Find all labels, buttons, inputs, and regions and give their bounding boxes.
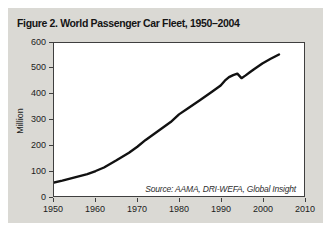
x-tick-mark <box>53 198 54 202</box>
x-tick-label: 2000 <box>248 204 278 214</box>
fleet-line-series <box>54 54 279 182</box>
x-tick-label: 1980 <box>164 204 194 214</box>
x-tick-label: 1970 <box>122 204 152 214</box>
y-tick-label: 300 <box>8 115 46 124</box>
x-tick-label: 2010 <box>290 204 320 214</box>
plot-box: Source: AAMA, DRI-WEFA, Global Insight <box>53 42 305 197</box>
y-tick-label: 500 <box>8 63 46 72</box>
fleet-line-chart <box>54 43 304 196</box>
x-tick-mark <box>263 198 264 202</box>
y-tick-label: 200 <box>8 141 46 150</box>
x-tick-label: 1950 <box>38 204 68 214</box>
y-tick-label: 0 <box>8 193 46 202</box>
x-tick-mark <box>305 198 306 202</box>
x-tick-mark <box>137 198 138 202</box>
y-tick-label: 600 <box>8 38 46 47</box>
x-tick-label: 1960 <box>80 204 110 214</box>
x-tick-mark <box>95 198 96 202</box>
y-tick-label: 100 <box>8 167 46 176</box>
x-tick-mark <box>221 198 222 202</box>
figure-title: Figure 2. World Passenger Car Fleet, 195… <box>17 17 317 29</box>
x-tick-mark <box>179 198 180 202</box>
y-tick-label: 400 <box>8 89 46 98</box>
source-note: Source: AAMA, DRI-WEFA, Global Insight <box>145 184 296 194</box>
x-tick-label: 1990 <box>206 204 236 214</box>
figure-card: Figure 2. World Passenger Car Fleet, 195… <box>8 8 323 223</box>
